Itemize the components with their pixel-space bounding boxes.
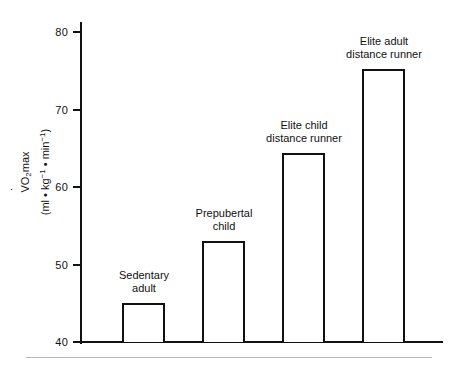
- y-axis-title: VO2max (ml • kg−1 • min−1): [16, 108, 54, 236]
- bar-label-prepubertal-child: Prepubertal child: [173, 207, 275, 233]
- bar-label-elite-adult-line-1: Elite adult: [360, 35, 408, 47]
- bar-elite-child-distance-runner: [282, 153, 325, 342]
- y-tick-label-50-wrap: 50: [44, 260, 68, 271]
- y-axis-title-text: VO2max (ml • kg−1 • min−1): [18, 129, 52, 215]
- y-tick-label-80-wrap: 80: [44, 27, 68, 38]
- bar-label-sedentary-adult-line-1: Sedentary: [119, 269, 169, 281]
- bar-elite-adult-distance-runner: [362, 69, 405, 342]
- bar-label-prepubertal-child-line-2: child: [213, 220, 236, 232]
- y-tick-label-40: 40: [44, 337, 68, 348]
- bar-prepubertal-child: [202, 241, 245, 342]
- footer-divider-rule: [26, 357, 432, 358]
- y-tick-70: [73, 109, 81, 111]
- y-axis-title-line-1: VO2max: [18, 129, 36, 215]
- y-tick-60: [73, 186, 81, 188]
- bar-label-elite-child-line-2: distance runner: [266, 132, 342, 144]
- y-tick-label-80: 80: [44, 27, 68, 38]
- bar-label-elite-adult-distance-runner: Elite adult distance runner: [325, 35, 443, 61]
- y-tick-label-40-wrap: 40: [44, 337, 68, 348]
- bar-sedentary-adult: [122, 303, 165, 342]
- y-tick-label-50: 50: [44, 260, 68, 271]
- bar-label-elite-child-line-1: Elite child: [280, 119, 327, 131]
- plot-area: 40 50 60 70 80 VO2max (ml • kg−1 • min−1…: [0, 0, 455, 369]
- y-axis-line: [80, 22, 82, 344]
- bar-label-sedentary-adult: Sedentary adult: [97, 269, 191, 295]
- bar-label-sedentary-adult-line-2: adult: [132, 282, 156, 294]
- y-tick-80: [73, 31, 81, 33]
- bar-label-elite-adult-line-2: distance runner: [346, 48, 422, 60]
- y-axis-title-line-2: (ml • kg−1 • min−1): [36, 129, 52, 215]
- figure-vo2max-bar-chart: 40 50 60 70 80 VO2max (ml • kg−1 • min−1…: [0, 0, 455, 369]
- bar-label-prepubertal-child-line-1: Prepubertal: [196, 207, 253, 219]
- y-tick-50: [73, 264, 81, 266]
- bar-label-elite-child-distance-runner: Elite child distance runner: [245, 119, 363, 145]
- y-tick-40: [73, 341, 81, 343]
